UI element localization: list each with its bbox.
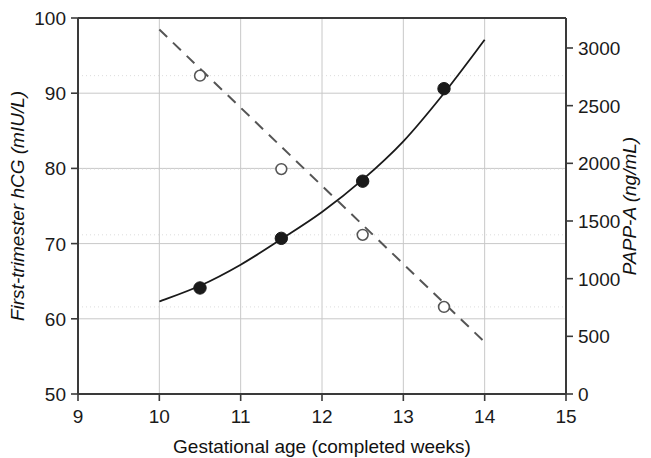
x-axis-tick-label: 12 (311, 406, 332, 427)
data-point-hcg (275, 232, 287, 244)
x-axis-tick-label: 11 (231, 406, 251, 427)
y2-axis-tick-label: 1500 (578, 211, 620, 232)
y2-axis-tick-label: 3000 (578, 38, 620, 59)
y2-axis-tick-label: 2000 (578, 153, 620, 174)
y-axis-tick-label: 70 (45, 234, 66, 255)
data-point-hcg (356, 175, 368, 187)
x-axis-tick-label: 9 (73, 406, 84, 427)
data-point-hcg (194, 282, 206, 294)
data-point-papp-a (439, 302, 450, 313)
y-axis-title: First-trimester hCG (mIU/L) (7, 91, 28, 321)
y-axis-tick-label: 90 (45, 83, 66, 104)
chart-figure: 9101112131415506070809010005001000150020… (0, 0, 651, 458)
y2-axis-tick-label: 1000 (578, 269, 620, 290)
x-axis-tick-label: 10 (149, 406, 170, 427)
x-axis-tick-label: 14 (474, 406, 496, 427)
x-axis-tick-label: 15 (555, 406, 576, 427)
y-axis-tick-label: 80 (45, 158, 66, 179)
x-axis-tick-label: 13 (393, 406, 414, 427)
y2-axis-tick-label: 500 (578, 326, 610, 347)
x-axis-title: Gestational age (completed weeks) (173, 436, 471, 457)
y2-axis-title: PAPP-A (ng/mL) (619, 137, 640, 275)
data-point-hcg (438, 82, 450, 94)
data-point-papp-a (195, 70, 206, 81)
y-axis-tick-label: 100 (34, 8, 66, 29)
chart-canvas: 9101112131415506070809010005001000150020… (0, 0, 651, 458)
y2-axis-tick-label: 2500 (578, 96, 620, 117)
data-point-papp-a (276, 164, 287, 175)
y-axis-tick-label: 50 (45, 384, 66, 405)
y-axis-tick-label: 60 (45, 309, 66, 330)
data-point-papp-a (357, 229, 368, 240)
y2-axis-tick-label: 0 (578, 384, 589, 405)
